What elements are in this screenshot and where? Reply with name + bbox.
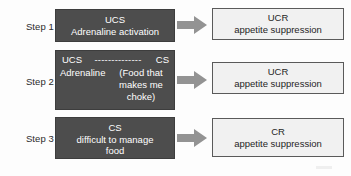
- step-3-stimulus-description-line-2: food: [56, 145, 174, 157]
- step-2-left-term: UCS: [62, 54, 82, 66]
- step-2-response-title: UCR: [213, 66, 343, 78]
- step-2-right-arrow-icon: [177, 71, 207, 89]
- step-2-response-box: UCR appetite suppression: [212, 62, 344, 94]
- step-3-stimulus-title: CS: [56, 122, 174, 134]
- step-1-response-description: appetite suppression: [213, 24, 343, 36]
- step-2-cs-description-line-3: choke): [112, 91, 170, 103]
- step-2-pairing-body: Adrenaline (Food that makes me choke): [60, 67, 170, 109]
- step-3-label: Step 3: [4, 133, 54, 144]
- step-1-stimulus-description: Adrenaline activation: [56, 26, 174, 38]
- step-1-stimulus-box: UCS Adrenaline activation: [55, 9, 175, 42]
- step-3-response-box: CR appetite suppression: [212, 118, 344, 157]
- step-2-pairing-row: UCS -------------- CS: [60, 54, 170, 66]
- conditioning-diagram: Step 1 UCS Adrenaline activation UCR app…: [0, 0, 351, 176]
- step-1-stimulus-title: UCS: [56, 14, 174, 26]
- step-2-unconditioned-stimulus-name: Adrenaline: [60, 67, 105, 79]
- step-2-conditioned-stimulus-description: (Food that makes me choke): [112, 67, 170, 103]
- step-2-label: Step 2: [4, 76, 54, 87]
- step-2-cs-description-line-2: makes me: [112, 79, 170, 91]
- step-2-dashed-connector: --------------: [86, 54, 150, 66]
- step-1-right-arrow-icon: [177, 16, 207, 34]
- step-3-response-title: CR: [213, 126, 343, 138]
- step-3-response-description: appetite suppression: [213, 138, 343, 150]
- step-1-label: Step 1: [4, 21, 54, 32]
- step-3-stimulus-description-line-1: difficult to manage: [56, 134, 174, 146]
- page-edge-artifact: [316, 166, 332, 169]
- step-1-response-box: UCR appetite suppression: [212, 8, 344, 40]
- step-3-right-arrow-icon: [177, 129, 207, 147]
- step-2-cs-description-line-1: (Food that: [112, 67, 170, 79]
- step-2-right-term: CS: [156, 54, 169, 66]
- step-2-response-description: appetite suppression: [213, 78, 343, 90]
- step-3-stimulus-box: CS difficult to manage food: [55, 117, 175, 159]
- step-1-response-title: UCR: [213, 12, 343, 24]
- step-2-pairing-box: UCS -------------- CS Adrenaline (Food t…: [55, 50, 175, 110]
